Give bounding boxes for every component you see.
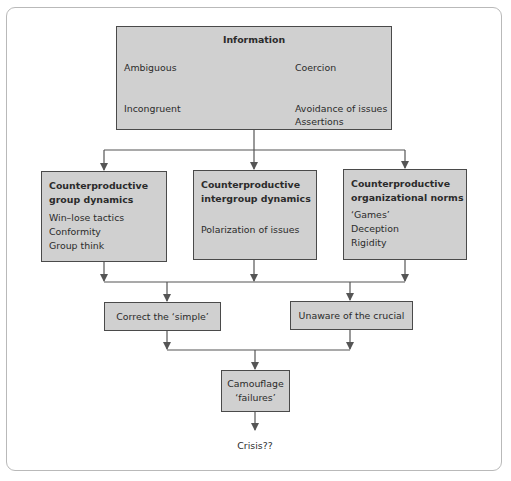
organizational-norms-box: Counterproductive organizational norms ‘… xyxy=(343,169,467,260)
avoidance-label: Avoidance of issues xyxy=(295,102,387,116)
incongruent-label: Incongruent xyxy=(124,102,181,116)
unaware-crucial-label: Unaware of the crucial xyxy=(291,309,412,323)
norms-title-line2: organizational norms xyxy=(351,191,463,205)
camouflage-line2: ‘failures’ xyxy=(222,391,289,405)
norms-title-line1: Counterproductive xyxy=(351,177,450,191)
group-item: Conformity xyxy=(49,225,101,239)
group-dynamics-title-line2: group dynamics xyxy=(49,193,133,207)
group-item: Group think xyxy=(49,239,104,253)
information-title: Information xyxy=(117,33,391,47)
group-dynamics-box: Counterproductive group dynamics Win–los… xyxy=(41,171,167,262)
ambiguous-label: Ambiguous xyxy=(124,61,177,75)
camouflage-failures-box: Camouflage ‘failures’ xyxy=(221,370,290,412)
camouflage-line1: Camouflage xyxy=(222,377,289,391)
unaware-crucial-box: Unaware of the crucial xyxy=(290,301,413,330)
crisis-label: Crisis?? xyxy=(230,439,280,453)
group-item: Win–lose tactics xyxy=(49,211,124,225)
correct-simple-box: Correct the ‘simple’ xyxy=(104,302,221,331)
information-box: Information Ambiguous Coercion Incongrue… xyxy=(116,26,392,130)
correct-simple-label: Correct the ‘simple’ xyxy=(105,310,220,324)
intergroup-title-line2: intergroup dynamics xyxy=(201,192,311,206)
coercion-label: Coercion xyxy=(295,61,336,75)
group-dynamics-title-line1: Counterproductive xyxy=(49,179,148,193)
norms-item: Deception xyxy=(351,222,399,236)
intergroup-item: Polarization of issues xyxy=(201,223,299,237)
intergroup-dynamics-box: Counterproductive intergroup dynamics Po… xyxy=(193,170,317,260)
assertions-label: Assertions xyxy=(295,115,344,129)
norms-item: Rigidity xyxy=(351,236,386,250)
norms-item: ‘Games’ xyxy=(351,208,390,222)
intergroup-title-line1: Counterproductive xyxy=(201,178,300,192)
